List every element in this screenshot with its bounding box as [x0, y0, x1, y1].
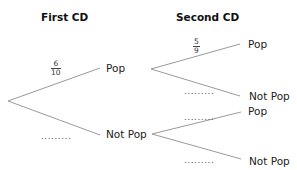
outcome-second-pop-pop: Pop [248, 38, 267, 50]
outcome-second-notpop-not-pop: Not Pop [249, 155, 290, 167]
blank-second-notpop-not-pop: ......... [184, 155, 214, 165]
outcome-first-not-pop: Not Pop [106, 128, 147, 140]
branch-first-not-pop [8, 101, 100, 135]
blank-second-pop-not-pop: ......... [184, 86, 214, 96]
probability-second-pop-pop: 5 9 [193, 38, 200, 55]
outcome-second-notpop-pop: Pop [248, 105, 267, 117]
heading-first-cd: First CD [41, 11, 88, 23]
probability-first-pop: 6 10 [51, 60, 61, 77]
tree-branches [0, 0, 297, 170]
heading-second-cd: Second CD [176, 11, 239, 23]
outcome-first-pop: Pop [106, 62, 125, 74]
blank-first-not-pop: ......... [41, 131, 71, 141]
blank-second-notpop-pop: ......... [184, 112, 214, 122]
outcome-second-pop-not-pop: Not Pop [249, 90, 290, 102]
